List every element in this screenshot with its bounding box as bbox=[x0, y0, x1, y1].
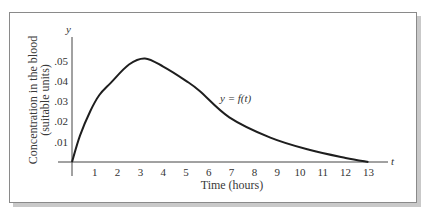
y-tick-label: .02 bbox=[54, 115, 68, 127]
axes bbox=[58, 37, 388, 176]
x-tick-label: 6 bbox=[206, 166, 212, 178]
x-tick-label: 4 bbox=[160, 166, 166, 178]
y-tick-label: .04 bbox=[54, 75, 68, 87]
concentration-curve bbox=[72, 58, 368, 162]
x-tick-label: 11 bbox=[318, 166, 329, 178]
y-tick-label: .05 bbox=[54, 55, 68, 67]
y-tick-label: .03 bbox=[54, 95, 68, 107]
y-axis-symbol: y bbox=[65, 23, 71, 35]
x-tick-label: 1 bbox=[92, 166, 98, 178]
x-tick-label: 3 bbox=[138, 166, 144, 178]
x-tick-label: 9 bbox=[274, 166, 280, 178]
x-tick-label: 2 bbox=[115, 166, 121, 178]
y-tick-label: .01 bbox=[54, 136, 68, 148]
x-tick-label: 7 bbox=[229, 166, 235, 178]
curve-label: y = f(t) bbox=[219, 92, 252, 105]
x-axis-label: Time (hours) bbox=[201, 178, 264, 193]
x-tick-label: 13 bbox=[363, 166, 375, 178]
y-axis-label-line-2: (suitable units) bbox=[39, 36, 51, 164]
x-tick-label: 10 bbox=[295, 166, 307, 178]
x-axis-symbol: t bbox=[391, 155, 395, 167]
x-tick-label: 12 bbox=[340, 166, 351, 178]
x-tick-label: 8 bbox=[252, 166, 258, 178]
tick-labels: 12345678910111213.01.02.03.04.05 bbox=[54, 55, 374, 179]
x-tick-label: 5 bbox=[183, 166, 189, 178]
